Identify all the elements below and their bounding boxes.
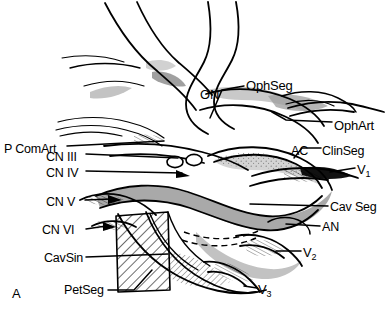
label-cn3: CN III	[46, 151, 77, 164]
label-v1: V1	[357, 163, 370, 176]
label-petseg: PetSeg	[64, 284, 104, 297]
cn4-oval	[186, 154, 202, 165]
leader-cn5	[85, 199, 112, 200]
label-v3: V3	[258, 283, 271, 296]
label-ophseg: OphSeg	[246, 79, 293, 92]
label-on: ON	[200, 88, 219, 101]
label-cn6: CN VI	[42, 224, 74, 237]
label-v3-sub: 3	[266, 289, 271, 299]
panel-label: A	[12, 286, 21, 301]
label-cn4: CN IV	[46, 167, 78, 180]
anatomical-figure: P ComArt CN III CN IV CN V CN VI CavSin …	[0, 0, 392, 314]
label-cn5: CN V	[46, 196, 75, 209]
label-v1-sub: 1	[365, 169, 370, 179]
label-cavseg: Cav Seg	[330, 201, 377, 214]
label-clinseg: ClinSeg	[322, 145, 364, 158]
label-ophart: OphArt	[334, 119, 374, 132]
label-v2: V2	[303, 246, 316, 259]
label-v2-sub: 2	[311, 252, 316, 262]
label-cavsin: CavSin	[44, 252, 83, 265]
label-ac: AC	[291, 145, 308, 158]
label-an: AN	[322, 221, 339, 234]
